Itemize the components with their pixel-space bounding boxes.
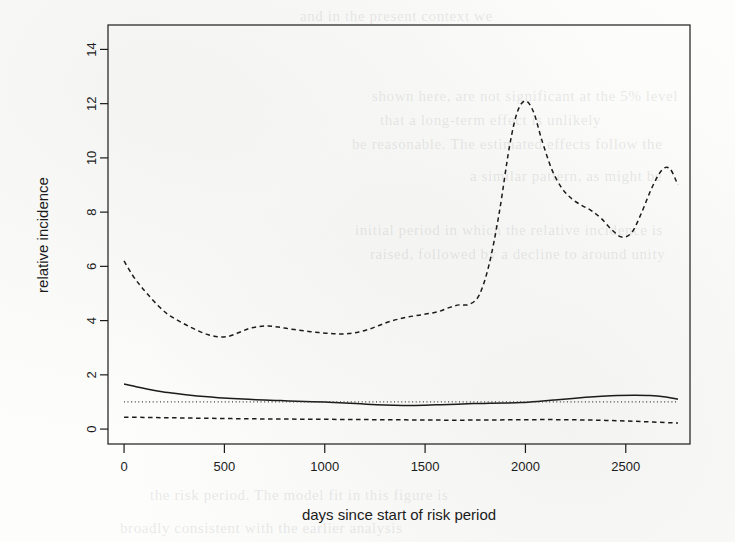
y-axis-tick-labels: 02468101214 [85,42,100,433]
y-tick-label: 12 [85,96,100,110]
y-tick-label: 6 [85,263,100,270]
y-tick-label: 2 [85,371,100,378]
x-tick-label: 2500 [611,459,640,474]
x-axis-title: days since start of risk period [302,506,496,523]
x-tick-label: 2000 [511,459,540,474]
x-axis-ticks [124,444,626,453]
series-dashed-line [124,417,678,423]
x-tick-label: 1000 [310,459,339,474]
x-axis-tick-labels: 05001000150020002500 [120,459,640,474]
y-tick-label: 0 [85,425,100,432]
plot-frame-box [108,25,690,444]
series-dashed-line [124,101,678,337]
relative-incidence-chart: 02468101214 05001000150020002500 relativ… [0,0,735,542]
y-axis-title: relative incidence [34,177,51,293]
data-series-layer [124,101,678,423]
y-tick-label: 10 [85,151,100,165]
y-axis-ticks [100,49,108,429]
y-tick-label: 4 [85,317,100,324]
x-tick-label: 1500 [411,459,440,474]
y-tick-label: 8 [85,209,100,216]
y-tick-label: 14 [85,42,100,56]
x-tick-label: 500 [214,459,236,474]
x-tick-label: 0 [120,459,127,474]
